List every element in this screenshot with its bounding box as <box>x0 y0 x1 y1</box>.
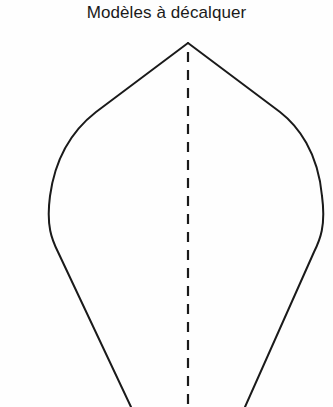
leaf-template-figure <box>0 0 333 407</box>
leaf-right-outline <box>188 43 323 407</box>
template-page: Modèles à décalquer <box>0 0 333 407</box>
leaf-left-outline <box>49 43 188 407</box>
